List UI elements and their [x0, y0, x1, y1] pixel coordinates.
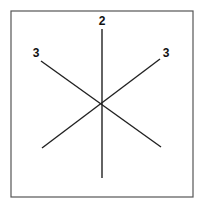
label-upper-left: 3: [33, 46, 40, 60]
label-upper-right: 3: [163, 46, 170, 60]
diagonal-line-2: [42, 59, 160, 148]
star-lines: [41, 29, 161, 178]
star-labels: 233: [33, 14, 170, 60]
label-top: 2: [99, 14, 106, 28]
star-diagram: 233: [0, 0, 203, 204]
